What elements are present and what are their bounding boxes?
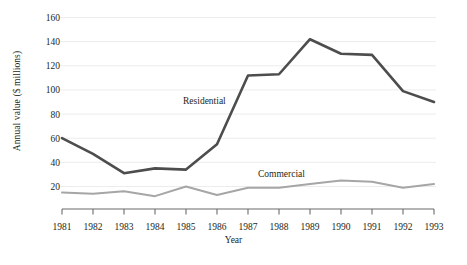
x-axis-line-and-ticks	[62, 209, 434, 215]
caption-ghost-text	[66, 250, 68, 258]
gridlines	[60, 18, 436, 187]
plot-canvas	[0, 0, 467, 265]
series-line-commercial	[62, 180, 434, 196]
series-line-residential	[62, 39, 434, 173]
series-lines	[62, 39, 434, 196]
figure-container: Annual value ($ millions) Year 160 140 1…	[0, 0, 467, 265]
